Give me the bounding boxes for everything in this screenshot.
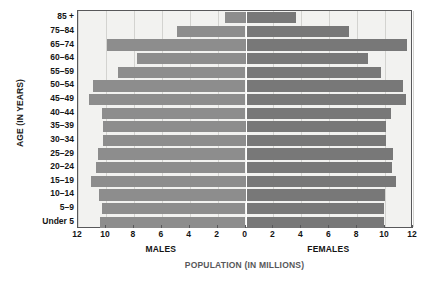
- pyramid-row: [78, 188, 411, 202]
- bar-female: [246, 176, 397, 187]
- bar-male: [89, 94, 245, 105]
- bar-male: [102, 108, 246, 119]
- x-tick-label: 12: [65, 229, 89, 239]
- age-label: 60–64: [14, 53, 74, 62]
- bar-female: [246, 39, 408, 50]
- pyramid-row: [78, 93, 411, 107]
- bar-male: [118, 67, 245, 78]
- age-label: 15–19: [14, 176, 74, 185]
- bar-female: [246, 121, 387, 132]
- age-label: 85 +: [14, 12, 74, 21]
- x-tick-label: 2: [205, 229, 229, 239]
- age-label: 5–9: [14, 203, 74, 212]
- bar-male: [99, 189, 246, 200]
- bar-female: [246, 108, 391, 119]
- bar-female: [246, 80, 404, 91]
- series-label-males: MALES: [101, 244, 221, 254]
- pyramid-row: [78, 66, 411, 80]
- bar-male: [107, 39, 245, 50]
- x-tick-label: 6: [316, 229, 340, 239]
- x-tick-mark: [356, 225, 357, 228]
- pyramid-row: [78, 202, 411, 216]
- age-label: 75–84: [14, 26, 74, 35]
- population-pyramid-chart: AGE (IN YEARS) 85 +75–8465–7460–6455–595…: [0, 0, 425, 286]
- pyramid-row: [78, 134, 411, 148]
- series-label-females: FEMALES: [268, 244, 388, 254]
- x-axis-tick-labels: 12108642024681012: [77, 229, 412, 241]
- x-axis-title: POPULATION (IN MILLIONS): [77, 260, 412, 270]
- age-label: 25–29: [14, 149, 74, 158]
- bar-female: [246, 189, 386, 200]
- pyramid-row: [78, 11, 411, 25]
- pyramid-row: [78, 38, 411, 52]
- bar-female: [246, 135, 387, 146]
- x-tick-mark: [384, 225, 385, 228]
- gridline: [413, 11, 414, 227]
- x-tick-label: 2: [260, 229, 284, 239]
- bar-female: [246, 67, 381, 78]
- bar-male: [177, 26, 245, 37]
- age-label: Under 5: [14, 217, 74, 226]
- x-tick-mark: [217, 225, 218, 228]
- x-tick-label: 8: [121, 229, 145, 239]
- bar-male: [137, 53, 246, 64]
- bar-female: [246, 148, 394, 159]
- age-label: 10–14: [14, 189, 74, 198]
- pyramid-row: [78, 25, 411, 39]
- bar-male: [102, 203, 246, 214]
- pyramid-row: [78, 147, 411, 161]
- bar-male: [98, 148, 246, 159]
- bar-male: [96, 162, 245, 173]
- bar-female: [246, 12, 296, 23]
- age-label: 50–54: [14, 80, 74, 89]
- x-tick-label: 6: [149, 229, 173, 239]
- age-label: 65–74: [14, 40, 74, 49]
- bar-male: [93, 80, 245, 91]
- bar-male: [100, 217, 245, 228]
- x-tick-label: 8: [344, 229, 368, 239]
- x-tick-label: 4: [288, 229, 312, 239]
- bar-female: [246, 203, 384, 214]
- x-tick-mark: [77, 225, 78, 228]
- bar-male: [225, 12, 246, 23]
- center-axis-line: [246, 11, 247, 227]
- x-tick-label: 12: [400, 229, 424, 239]
- x-tick-mark: [412, 225, 413, 228]
- age-label: 55–59: [14, 67, 74, 76]
- x-tick-label: 10: [93, 229, 117, 239]
- pyramid-row: [78, 161, 411, 175]
- bar-male: [103, 135, 245, 146]
- pyramid-row: [78, 120, 411, 134]
- pyramid-row: [78, 52, 411, 66]
- x-tick-mark: [189, 225, 190, 228]
- bar-female: [246, 26, 349, 37]
- plot-area: [77, 10, 412, 228]
- bar-female: [246, 94, 407, 105]
- x-tick-mark: [328, 225, 329, 228]
- x-tick-label: 4: [177, 229, 201, 239]
- bar-male: [91, 176, 246, 187]
- age-label: 45–49: [14, 94, 74, 103]
- bar-male: [103, 121, 245, 132]
- x-tick-label: 10: [372, 229, 396, 239]
- x-tick-mark: [272, 225, 273, 228]
- pyramid-row: [78, 175, 411, 189]
- x-tick-mark: [300, 225, 301, 228]
- x-tick-mark: [105, 225, 106, 228]
- x-tick-label: 0: [233, 229, 257, 239]
- pyramid-row: [78, 106, 411, 120]
- series-labels: MALESFEMALES: [77, 244, 412, 256]
- pyramid-row: [78, 79, 411, 93]
- age-label: 20–24: [14, 162, 74, 171]
- age-axis-labels: 85 +75–8465–7460–6455–5950–5445–4940–443…: [14, 10, 74, 228]
- bar-female: [246, 162, 393, 173]
- age-label: 40–44: [14, 108, 74, 117]
- bar-female: [246, 53, 369, 64]
- bar-female: [246, 217, 384, 228]
- age-label: 35–39: [14, 121, 74, 130]
- x-tick-mark: [133, 225, 134, 228]
- x-tick-mark: [161, 225, 162, 228]
- age-label: 30–34: [14, 135, 74, 144]
